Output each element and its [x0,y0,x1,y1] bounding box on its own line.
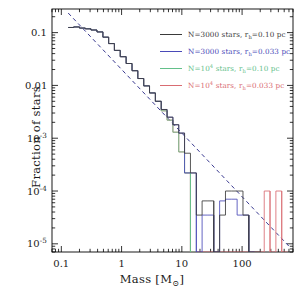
y-tick-label-0: 0.1 [31,27,47,38]
x-tick-label-3: 100 [233,258,252,269]
legend-label-0-head: N=3000 stars, r [188,30,248,39]
x-tick-label-0: 0.1 [53,258,69,269]
legend-line-swatch-3 [160,85,182,86]
x-axis-label: Mass [M⊙] [0,272,304,286]
y-tick-label-2: 10-3 [27,133,47,144]
legend-entry-2: N=104 stars, rh=0.10 pc [160,60,290,77]
legend-label-3: N=104 stars, rh=0.033 pc [188,82,284,89]
legend-label-0: N=3000 stars, rh=0.10 pc [188,31,286,38]
legend-line-swatch-0 [160,34,182,35]
legend-label-1-head: N=3000 stars, r [188,47,248,56]
legend-label-0-tail: =0.10 pc [252,30,286,39]
figure-canvas: Fraction of stars Mass [M⊙] N=3000 stars… [0,0,304,300]
legend-label-2: N=104 stars, rh=0.10 pc [188,65,280,72]
y-tick-label-3: 10-4 [27,186,47,197]
legend-line-swatch-2 [160,68,182,69]
legend: N=3000 stars, rh=0.10 pc N=3000 stars, r… [160,26,290,94]
legend-line-swatch-1 [160,51,182,52]
legend-label-3-tail: =0.033 pc [246,81,284,90]
legend-entry-0: N=3000 stars, rh=0.10 pc [160,26,290,43]
x-axis-label-suffix: ] [179,272,184,286]
x-axis-label-prefix: Mass [M [120,272,172,286]
legend-label-2-tail: =0.10 pc [246,64,280,73]
legend-label-1-tail: =0.033 pc [252,47,290,56]
legend-entry-3: N=104 stars, rh=0.033 pc [160,77,290,94]
legend-label-1: N=3000 stars, rh=0.033 pc [188,48,290,55]
legend-entry-1: N=3000 stars, rh=0.033 pc [160,43,290,60]
legend-label-2-mid: stars, r [213,64,242,73]
legend-label-2-head: N=10 [188,64,210,73]
y-tick-label-1: 0.01 [25,80,47,91]
legend-label-3-mid: stars, r [213,81,242,90]
x-tick-label-2: 10 [175,258,188,269]
x-tick-label-1: 1 [119,258,125,269]
legend-label-3-head: N=10 [188,81,210,90]
y-tick-label-4: 10-5 [27,238,47,249]
